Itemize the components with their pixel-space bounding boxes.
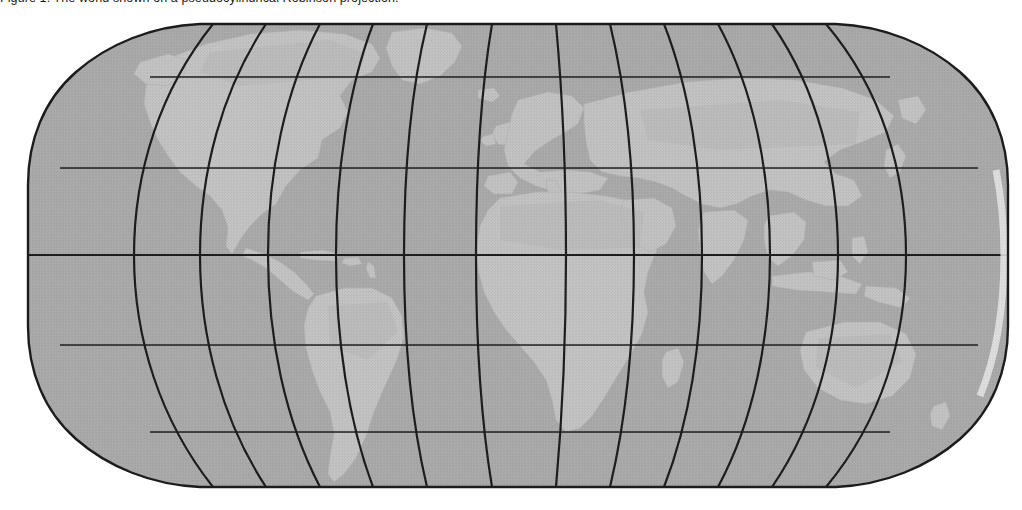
halftone-texture <box>0 0 1022 510</box>
world-map-figure <box>0 0 1022 510</box>
figure-page: Figure 1. The world shown on a pseudocyl… <box>0 0 1022 510</box>
world-map-svg <box>0 0 1022 510</box>
map-content <box>0 0 1022 510</box>
